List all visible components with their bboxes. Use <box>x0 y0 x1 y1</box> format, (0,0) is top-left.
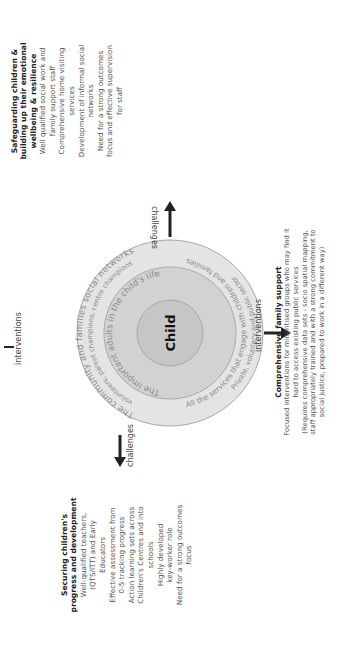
family-line: social justice, prepared to work in a di… <box>318 197 327 467</box>
securing-line: Action learning sets across <box>127 475 137 635</box>
safeguarding-line: family support staff <box>48 11 58 191</box>
block-family-support: Comprehensive family support Focused int… <box>274 197 326 467</box>
safeguarding-title-3: wellbeing & resilience <box>29 11 38 191</box>
safeguarding-line: Well qualified social work and <box>38 11 48 191</box>
safeguarding-line: Need for a strong outcomes <box>96 11 106 191</box>
safeguarding-line: networks <box>86 11 96 191</box>
securing-line: Need for a strong outcomes <box>175 475 185 635</box>
family-line: Focused interventions for minoritised gr… <box>283 197 292 467</box>
securing-line: Well-qualified teachers, <box>79 475 89 635</box>
securing-line: focus <box>184 475 194 635</box>
arrowhead-left <box>114 457 126 467</box>
family-title: Comprehensive family support <box>274 197 283 467</box>
family-line: hard to access existing public services <box>292 197 301 467</box>
family-line: (Requires comprehensive data sets - soci… <box>301 197 310 467</box>
diagram-stage: The community and families social networ… <box>0 0 339 647</box>
securing-title-1: Securing children's <box>60 475 69 635</box>
securing-line: 0-5 tracking progress <box>117 475 127 635</box>
safeguarding-line: Comprehensive home visiting <box>57 11 67 191</box>
label-interventions-top: interventions <box>14 312 23 365</box>
block-safeguarding: Safeguarding children & building up thei… <box>10 11 125 191</box>
safeguarding-line: for staff <box>115 11 125 191</box>
safeguarding-title-1: Safeguarding children & <box>10 11 19 191</box>
safeguarding-title-2: building up their emotional <box>19 11 28 191</box>
securing-line: Children's Centres and into <box>136 475 146 635</box>
securing-line: key-worker role <box>165 475 175 635</box>
family-line: staff appropriately trained and with a s… <box>309 197 318 467</box>
safeguarding-line: services <box>67 11 77 191</box>
arrowhead-right <box>164 201 176 211</box>
block-securing: Securing children's progress and develop… <box>60 475 194 635</box>
securing-line: Effective assessment from <box>108 475 118 635</box>
label-challenges-right: challenges <box>150 206 159 249</box>
safeguarding-line: Development of informal social <box>77 11 87 191</box>
safeguarding-line: focus and effective supervision <box>105 11 115 191</box>
label-challenges-left: challenges <box>126 424 135 467</box>
center-label: Child <box>163 314 178 351</box>
securing-title-2: progress and development <box>69 475 78 635</box>
securing-line: (QTS/ITT) and Early <box>88 475 98 635</box>
label-interventions-bottom: interventions <box>254 299 263 352</box>
securing-line: schools <box>146 475 156 635</box>
securing-line: Educators <box>98 475 108 635</box>
securing-line: Highly developed <box>156 475 166 635</box>
